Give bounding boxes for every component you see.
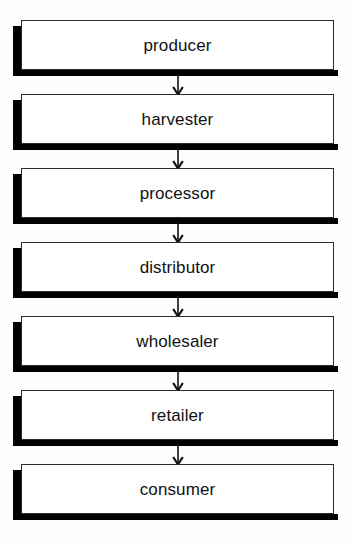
process-box[interactable]: processor [21, 168, 334, 218]
connector-arrow-down-icon [172, 296, 184, 318]
box-shadow-left [13, 248, 21, 298]
connector-arrow-down-icon [172, 370, 184, 392]
box-shadow-bottom [13, 514, 338, 520]
process-box[interactable]: wholesaler [21, 316, 334, 366]
process-box-label: retailer [151, 407, 204, 424]
process-box-label: consumer [140, 481, 215, 498]
process-box-label: processor [140, 185, 216, 202]
box-shadow-left [13, 100, 21, 150]
box-shadow-left [13, 396, 21, 446]
connector-arrow-down-icon [172, 444, 184, 466]
box-shadow-left [13, 174, 21, 224]
process-box-label: distributor [140, 259, 216, 276]
process-box-label: wholesaler [136, 333, 218, 350]
process-box[interactable]: consumer [21, 464, 334, 514]
process-box-label: producer [144, 37, 212, 54]
process-box[interactable]: harvester [21, 94, 334, 144]
flow-diagram: producerharvesterprocessordistributorwho… [0, 0, 355, 544]
connector-arrow-down-icon [172, 148, 184, 170]
process-box[interactable]: distributor [21, 242, 334, 292]
box-shadow-left [13, 470, 21, 520]
box-shadow-left [13, 322, 21, 372]
box-shadow-left [13, 26, 21, 76]
process-box[interactable]: producer [21, 20, 334, 70]
connector-arrow-down-icon [172, 222, 184, 244]
process-box[interactable]: retailer [21, 390, 334, 440]
process-box-label: harvester [142, 111, 214, 128]
connector-arrow-down-icon [172, 74, 184, 96]
